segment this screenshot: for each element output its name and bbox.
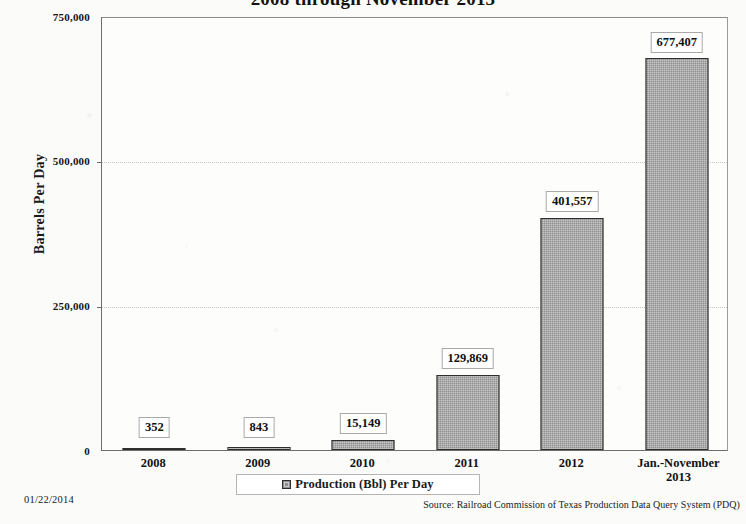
bar-group-jan-november-2013: 677,407: [625, 18, 730, 450]
footer-source: Source: Railroad Commission of Texas Pro…: [423, 499, 740, 510]
bar[interactable]: [541, 218, 604, 450]
bar-group-2009: 843: [207, 18, 312, 450]
y-tick-label: 0: [12, 445, 90, 457]
bar-value-label: 677,407: [650, 32, 703, 54]
bar[interactable]: [227, 447, 290, 450]
chart-legend: Production (Bbl) Per Day: [236, 474, 480, 495]
y-axis-title: Barrels Per Day: [32, 124, 48, 284]
y-tick-label: 500,000: [12, 155, 90, 167]
x-label-2011: 2011: [415, 456, 520, 470]
y-tick-label: 250,000: [12, 300, 90, 312]
bar[interactable]: [645, 58, 708, 450]
bar-value-label: 129,869: [441, 348, 494, 370]
bar[interactable]: [332, 440, 395, 450]
x-label-2009: 2009: [206, 456, 311, 470]
bar-value-label: 843: [243, 417, 274, 439]
bar-group-2008: 352: [102, 18, 207, 450]
bar-value-label: 401,557: [546, 191, 599, 213]
x-label-line-1: Jan.-November: [624, 456, 734, 470]
x-label-2008: 2008: [101, 456, 206, 470]
plot-area: 352 843 15,149 129,869 401,557 677,407: [101, 17, 728, 451]
x-label-2010: 2010: [310, 456, 415, 470]
chart-title: 2008 through November 2013: [0, 0, 746, 8]
bar[interactable]: [123, 448, 186, 450]
bar-group-2011: 129,869: [416, 18, 521, 450]
x-label-line-2: 2013: [624, 470, 734, 484]
x-label-jan-november-2013: Jan.-November 2013: [624, 456, 734, 484]
bar-group-2010: 15,149: [311, 18, 416, 450]
bar[interactable]: [436, 375, 499, 450]
y-tick-label: 750,000: [12, 11, 90, 23]
bar-group-2012: 401,557: [520, 18, 625, 450]
legend-swatch-icon: [282, 480, 291, 489]
bar-value-label: 352: [139, 417, 170, 439]
bar-value-label: 15,149: [340, 413, 386, 435]
footer-date: 01/22/2014: [24, 494, 74, 505]
legend-label: Production (Bbl) Per Day: [295, 477, 433, 492]
x-label-2012: 2012: [519, 456, 624, 470]
